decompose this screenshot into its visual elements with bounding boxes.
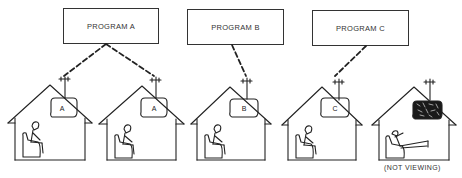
house-4 [282,79,362,160]
broadcast-lines [64,44,366,76]
house-2 [99,77,184,160]
house-2-tv-label: A [152,105,157,112]
house-1 [8,77,92,160]
house-3 [191,78,271,160]
diagram-drawing: A A [0,0,462,178]
house-4-tv-label: C [332,105,337,112]
tv-audience-diagram: PROGRAM A PROGRAM B PROGRAM C [0,0,462,178]
house-5 [372,79,456,160]
house-3-tv-label: B [242,105,247,112]
not-viewing-caption: (NOT VIEWING) [384,164,441,171]
house-1-tv-label: A [60,105,65,112]
